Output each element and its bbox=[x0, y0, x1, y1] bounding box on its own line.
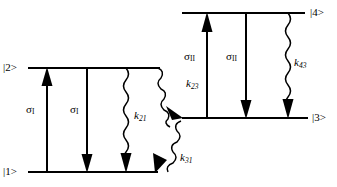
transition-label-k43: k43 bbox=[294, 57, 306, 69]
rate-subscript: 21 bbox=[139, 114, 147, 123]
energy-level-diagram: |2> |1> |4> |3> σI σI k21 k23 k31 σII σI… bbox=[0, 0, 337, 187]
transition-k31-nonradiative bbox=[153, 121, 181, 173]
transition-label-sigma-I-absorption: σI bbox=[26, 104, 34, 116]
rate-subscript: 31 bbox=[185, 156, 193, 165]
transition-k43-nonradiative bbox=[283, 13, 294, 119]
sigma-subscript: I bbox=[32, 107, 35, 116]
transition-label-k21: k21 bbox=[134, 110, 146, 122]
state-label-2: |2> bbox=[3, 62, 17, 73]
diagram-canvas bbox=[0, 0, 337, 187]
sigma-subscript: I bbox=[76, 107, 79, 116]
rate-subscript: 43 bbox=[299, 61, 307, 70]
state-label-3: |3> bbox=[312, 112, 326, 123]
rate-subscript: 23 bbox=[191, 82, 199, 91]
sigma-subscript: II bbox=[190, 54, 195, 63]
transition-label-k31: k31 bbox=[180, 152, 192, 164]
state-label-1: |1> bbox=[3, 166, 17, 177]
transition-sigma-II-emission bbox=[241, 13, 252, 119]
transition-sigma-I-absorption bbox=[42, 67, 53, 172]
sigma-subscript: II bbox=[232, 54, 237, 63]
transition-k21-nonradiative bbox=[121, 68, 132, 173]
state-label-4: |4> bbox=[310, 7, 324, 18]
transition-label-sigma-I-emission: σI bbox=[70, 104, 78, 116]
transition-label-sigma-II-emission: σII bbox=[226, 51, 237, 63]
transition-label-sigma-II-absorption: σII bbox=[184, 51, 195, 63]
transition-label-k23: k23 bbox=[186, 78, 198, 90]
transition-sigma-I-emission bbox=[82, 68, 93, 173]
transition-k23-nonradiative bbox=[158, 68, 183, 127]
transition-sigma-II-absorption bbox=[202, 12, 213, 118]
